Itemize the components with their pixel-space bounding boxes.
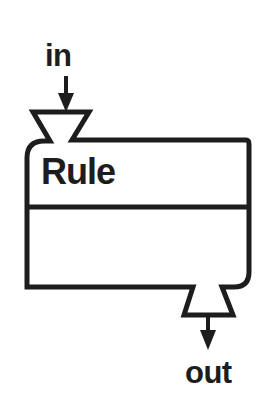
rule-block-outline: [27, 112, 249, 315]
output-label: out: [185, 357, 232, 388]
input-arrow-head-icon: [58, 93, 74, 112]
output-arrow-head-icon: [200, 330, 216, 350]
diagram-canvas: in Rule out: [0, 0, 271, 412]
rule-block-label: Rule: [41, 154, 115, 190]
rule-block-diagram: [0, 0, 271, 412]
input-label: in: [45, 40, 72, 71]
